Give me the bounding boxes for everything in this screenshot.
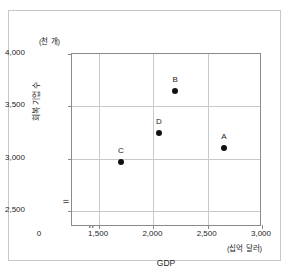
x-axis-tick-label: 2,500 (177, 230, 237, 238)
gridline-horizontal (72, 106, 260, 107)
x-axis-tick-label: 2,000 (122, 230, 182, 238)
data-point-a[interactable] (221, 145, 227, 151)
x-axis-tick-label: 1,500 (68, 230, 128, 238)
chart-figure: (천 개) 회복 기업 수 (십억 달러) GDP ≈ // ABCD 2,50… (8, 10, 281, 261)
y-axis-tick-label: 3,000 (0, 154, 25, 162)
data-point-c[interactable] (118, 159, 124, 165)
data-point-b[interactable] (172, 88, 178, 94)
y-axis-tick-label: 4,000 (0, 49, 25, 57)
y-axis-unit-label: (천 개) (39, 37, 60, 46)
y-axis-tick-label: 3,500 (0, 101, 25, 109)
x-axis-unit-label: (십억 달러) (227, 244, 262, 253)
plot-area: ABCD (71, 53, 261, 226)
gridline-vertical (153, 54, 154, 225)
y-tick-mark (68, 106, 72, 107)
y-axis-break-icon: ≈ (62, 196, 69, 207)
gridline-vertical (208, 54, 209, 225)
x-axis-tick-label: 3,000 (231, 230, 291, 238)
gridline-vertical (99, 54, 100, 225)
data-point-label-a: A (214, 133, 234, 141)
data-point-label-b: B (165, 76, 185, 84)
gridline-horizontal (72, 159, 260, 160)
y-tick-mark (68, 159, 72, 160)
data-point-label-d: D (149, 118, 169, 126)
x-axis-title: GDP (101, 259, 231, 268)
gridline-horizontal (72, 211, 260, 212)
y-tick-mark (68, 211, 72, 212)
y-tick-mark (68, 54, 72, 55)
y-axis-tick-label: 2,500 (0, 206, 25, 214)
data-point-d[interactable] (156, 130, 162, 136)
y-axis-title: 회복 기업 수 (32, 67, 41, 137)
data-point-label-c: C (111, 147, 131, 155)
x-axis-tick-label: 0 (9, 230, 69, 238)
